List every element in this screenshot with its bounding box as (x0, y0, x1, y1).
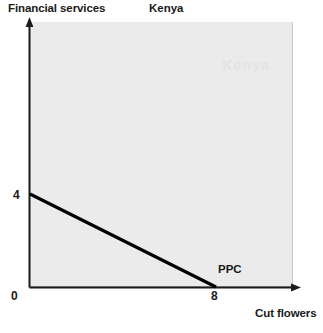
ppc-curve-label: PPC (218, 263, 242, 275)
axes-and-curve (0, 0, 323, 333)
y-axis-tick-label-4: 4 (13, 188, 20, 202)
x-axis-title: Cut flowers (255, 307, 317, 319)
x-axis-tick-label-8: 8 (211, 289, 218, 303)
origin-tick-label-0: 0 (11, 289, 18, 303)
y-axis-arrow-icon (26, 17, 34, 27)
y-axis-title: Financial services (8, 2, 105, 14)
ppc-chart: Kenya Financial services Kenya 4 0 8 PPC… (0, 0, 323, 333)
chart-title-country: Kenya (149, 2, 184, 14)
x-axis-arrow-icon (291, 284, 301, 292)
ppc-line (30, 194, 216, 287)
